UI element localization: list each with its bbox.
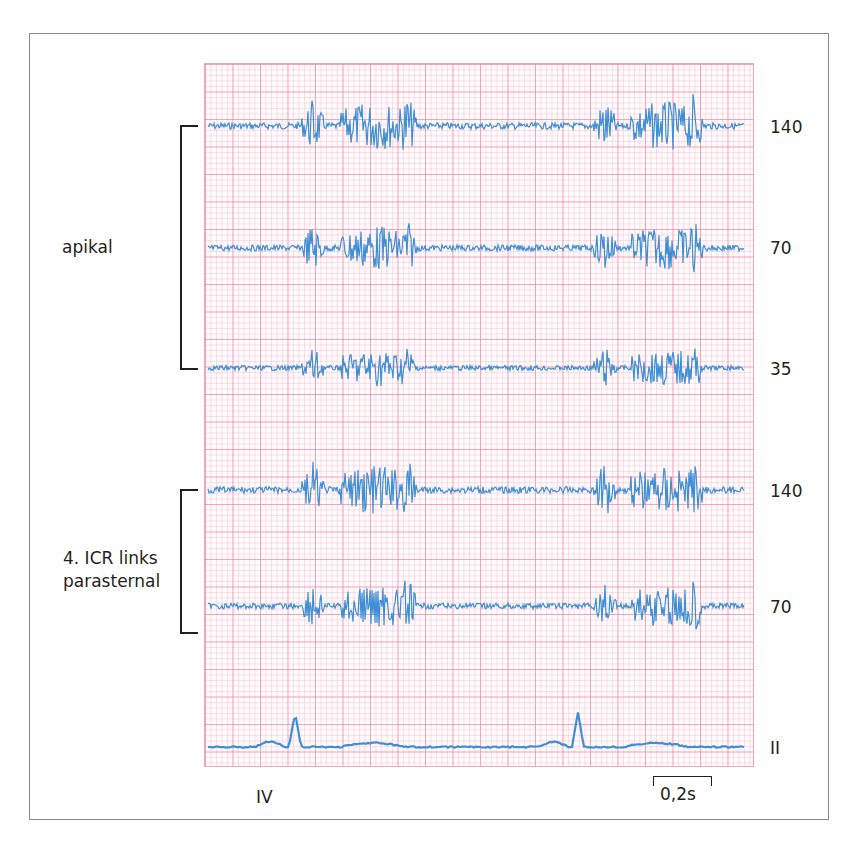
trace-3 [208, 462, 744, 514]
trace-4 [208, 581, 744, 630]
filter-label-apical-140: 140 [770, 117, 802, 137]
trace-2 [208, 349, 744, 387]
phonocardiogram-traces [204, 63, 754, 767]
heart-sound-iv-label: IV [256, 787, 273, 807]
filter-label-apical-35: 35 [770, 359, 792, 379]
parasternal-label-line1: 4. ICR links [63, 547, 158, 569]
ecg-lead-label: II [770, 738, 780, 758]
filter-label-parasternal-70: 70 [770, 597, 792, 617]
trace-1 [208, 223, 744, 272]
time-scale-label: 0,2s [660, 784, 696, 804]
filter-label-apical-70: 70 [770, 238, 792, 258]
apical-label: apikal [62, 236, 113, 258]
apical-bracket [180, 125, 198, 370]
trace-5 [208, 712, 744, 747]
filter-label-parasternal-140: 140 [770, 481, 802, 501]
parasternal-label-line2: parasternal [63, 570, 160, 592]
parasternal-bracket [180, 489, 198, 634]
trace-0 [208, 94, 744, 150]
